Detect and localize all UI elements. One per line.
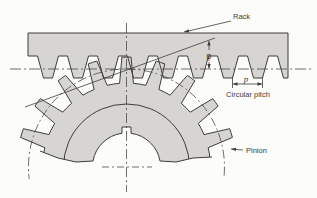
figure-canvas: Rack Pinion p φ Circular pitch	[0, 0, 317, 198]
circular-pitch-label: Circular pitch	[226, 90, 270, 99]
p-arrow-left	[233, 82, 238, 85]
pitch-symbol-label: p	[243, 74, 249, 84]
phi-arrow-down	[207, 64, 210, 69]
rack-label: Rack	[233, 12, 250, 21]
rack-leader-arrow	[184, 29, 189, 32]
p-arrow-right	[258, 82, 263, 85]
rack-leader-line	[184, 21, 231, 32]
pinion-label: Pinion	[246, 146, 267, 155]
pressure-angle-symbol: φ	[206, 52, 211, 61]
gear-rack-diagram: Rack Pinion p φ Circular pitch	[0, 0, 317, 198]
